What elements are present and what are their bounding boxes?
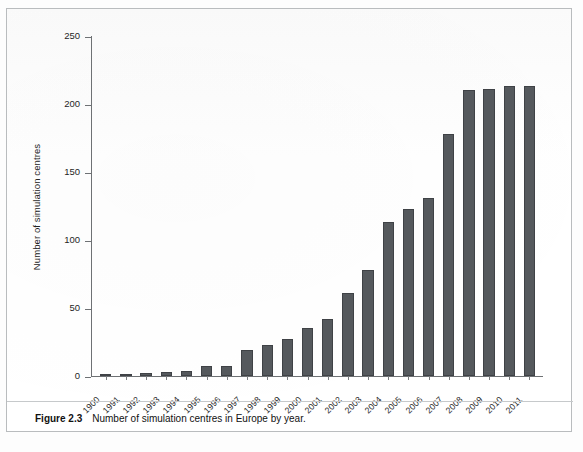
bar-group: 2010 [499,36,519,376]
x-axis-tick-label: 2003 [343,394,364,415]
bar [423,198,434,376]
y-axis-tick: 50 [85,309,91,310]
x-axis-tick [429,376,430,380]
x-axis-tick-label: 2008 [443,394,464,415]
y-axis-title: Number of simulation centres [31,0,42,117]
y-axis-tick-label: 200 [64,98,80,109]
figure-caption-text: Number of simulation centres in Europe b… [92,413,305,424]
x-axis-tick-label: 2005 [383,394,404,415]
x-axis-tick [207,376,208,380]
bar [282,339,293,376]
x-axis-tick [529,376,530,380]
bar [262,345,273,376]
x-axis-tick-label: 2011 [504,395,525,416]
bar-group: 1999 [277,36,297,376]
x-axis-tick-label: 2004 [363,394,384,415]
bar [524,86,535,376]
y-axis-title-text: Number of simulation centres [31,117,42,297]
bar-group: 2004 [378,36,398,376]
y-axis-tick: 200 [85,105,91,106]
x-axis-tick [388,376,389,380]
x-axis-tick [489,376,490,380]
x-axis-tick [146,376,147,380]
bar-group: 1996 [217,36,237,376]
bar-group: 1900 [96,36,116,376]
bar-group: 1995 [197,36,217,376]
bar-group: 2002 [338,36,358,376]
x-axis-tick [166,376,167,380]
bar-group: 1997 [237,36,257,376]
x-axis-line [91,376,543,377]
bar [362,270,373,376]
bar-group: 1998 [257,36,277,376]
x-axis-tick [328,376,329,380]
x-axis-tick [348,376,349,380]
figure-frame: Number of simulation centres 05010015020… [6,8,572,432]
scanned-page: Number of simulation centres 05010015020… [0,0,583,452]
x-axis-tick [308,376,309,380]
x-axis-tick [469,376,470,380]
bar [463,90,474,376]
x-axis-tick-label: 2006 [403,394,424,415]
chart-axes: 050100150200250 190019911992199319941995… [91,36,543,377]
bar-group: 2011 [519,36,539,376]
x-axis-tick [267,376,268,380]
x-axis-tick [247,376,248,380]
y-axis-tick: 0 [85,377,91,378]
x-axis-tick [106,376,107,380]
y-axis-tick-label: 0 [75,370,80,381]
bar-group: 2006 [418,36,438,376]
bar-group: 2008 [459,36,479,376]
x-axis-tick [449,376,450,380]
bar-group: 2007 [439,36,459,376]
bar-group: 2003 [358,36,378,376]
x-axis-tick-label: 2010 [484,394,505,415]
bar-group: 2000 [297,36,317,376]
x-axis-tick-label: 2007 [423,394,444,415]
bar [302,328,313,376]
bar [443,134,454,376]
bar [201,366,212,376]
bar-group: 1992 [136,36,156,376]
bar-group: 1994 [176,36,196,376]
y-axis-tick: 100 [85,241,91,242]
x-axis-tick [408,376,409,380]
y-axis-tick: 250 [85,37,91,38]
y-axis-tick-label: 150 [64,166,80,177]
x-axis-tick [368,376,369,380]
y-axis-tick-label: 100 [64,234,80,245]
y-axis-tick-label: 250 [64,30,80,41]
x-axis-tick [287,376,288,380]
bar [241,350,252,376]
y-axis-tick-label: 50 [69,302,80,313]
y-axis-tick: 150 [85,173,91,174]
bar [483,89,494,376]
x-axis-tick [509,376,510,380]
x-axis-tick [227,376,228,380]
bar [403,209,414,376]
bar-group: 1991 [116,36,136,376]
bar [342,293,353,376]
x-axis-tick [126,376,127,380]
chart-plot-area: Number of simulation centres 05010015020… [7,9,573,401]
bar-group: 2005 [398,36,418,376]
bar-group: 1993 [156,36,176,376]
x-axis-tick-label: 2009 [464,394,485,415]
bar-series: 1900199119921993199419951996199719981999… [92,36,543,376]
bar [383,222,394,376]
bar-group: 2009 [479,36,499,376]
figure-number: Figure 2.3 [35,413,82,424]
x-axis-tick [186,376,187,380]
bar-group: 2001 [318,36,338,376]
x-axis-tick-label: 2002 [322,394,343,415]
bar [322,319,333,376]
caption-divider [7,401,573,402]
bar [221,366,232,376]
figure-caption: Figure 2.3Number of simulation centres i… [35,413,306,424]
bar [504,86,515,376]
